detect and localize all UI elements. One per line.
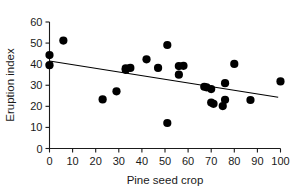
y-tick-label: 50 xyxy=(30,37,42,49)
regression-line xyxy=(50,61,279,97)
data-point xyxy=(163,41,171,49)
data-point xyxy=(142,55,150,63)
chart-canvas: 0102030405060 0102030405060708090100 Pin… xyxy=(0,0,296,191)
data-point xyxy=(230,60,238,68)
y-axis-title: Eruption index xyxy=(4,48,16,122)
data-points-group xyxy=(45,36,284,127)
data-point xyxy=(126,64,134,72)
y-tick-label: 30 xyxy=(30,79,42,91)
y-tick-label: 60 xyxy=(30,16,42,28)
x-tick-label: 40 xyxy=(136,155,148,167)
y-tick-label: 40 xyxy=(30,58,42,70)
y-axis-group: 0102030405060 xyxy=(30,16,49,155)
x-axis-ticks xyxy=(50,149,281,153)
y-tick-label: 10 xyxy=(30,121,42,133)
data-point xyxy=(163,119,171,127)
data-point xyxy=(154,64,162,72)
x-tick-label: 10 xyxy=(66,155,78,167)
data-point xyxy=(221,96,229,104)
x-axis-title: Pine seed crop xyxy=(127,174,204,186)
data-point xyxy=(175,71,183,79)
y-axis-tick-labels: 0102030405060 xyxy=(30,16,42,155)
data-point xyxy=(276,77,284,85)
scatter-plot-figure: 0102030405060 0102030405060708090100 Pin… xyxy=(0,0,296,191)
data-point xyxy=(99,95,107,103)
x-tick-label: 30 xyxy=(113,155,125,167)
data-point xyxy=(45,61,53,69)
data-point xyxy=(246,96,254,104)
x-axis-group: 0102030405060708090100 xyxy=(46,149,289,167)
y-axis-ticks xyxy=(46,22,50,149)
data-point xyxy=(209,100,217,108)
data-point xyxy=(112,87,120,95)
x-tick-label: 50 xyxy=(159,155,171,167)
x-tick-label: 90 xyxy=(251,155,263,167)
y-tick-label: 20 xyxy=(30,100,42,112)
y-tick-label: 0 xyxy=(36,143,42,155)
x-tick-label: 20 xyxy=(90,155,102,167)
data-point xyxy=(59,36,67,44)
x-tick-label: 60 xyxy=(182,155,194,167)
x-tick-label: 0 xyxy=(46,155,52,167)
x-axis-tick-labels: 0102030405060708090100 xyxy=(46,155,289,167)
data-point xyxy=(221,79,229,87)
x-tick-label: 70 xyxy=(205,155,217,167)
data-point xyxy=(45,51,53,59)
x-tick-label: 80 xyxy=(228,155,240,167)
data-point xyxy=(179,62,187,70)
x-tick-label: 100 xyxy=(271,155,289,167)
